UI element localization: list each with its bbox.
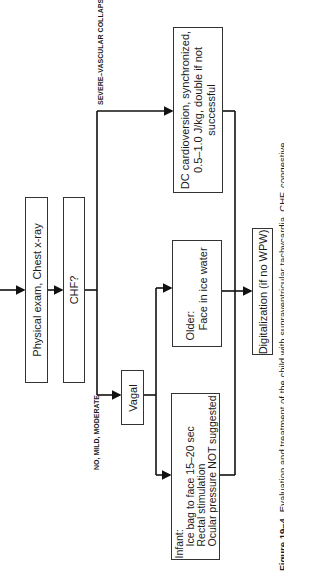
chf-label: CHF? — [68, 276, 81, 305]
figure-caption: Figure 19–4Evaluation and treatment of t… — [277, 143, 284, 571]
infant-node: Infant: Ice bag to face 15–20 sec Rectal… — [171, 393, 220, 560]
severe-branch-label: SEVERE–VASCULAR COLLAPSE — [97, 0, 104, 105]
mild-branch-label: NO, MILD, MODERATE — [93, 395, 100, 470]
vagal-label: Vagal — [126, 384, 139, 411]
figure-number: Figure 19–4 — [277, 518, 284, 571]
digitalization-node: Digitalization (if no WPW) — [252, 228, 273, 355]
vagal-node: Vagal — [121, 370, 144, 425]
digitalization-label: Digitalization (if no WPW) — [256, 229, 269, 354]
caption-text: Evaluation and treatment of the child wi… — [277, 143, 284, 513]
older-node: Older: Face in ice water — [172, 240, 222, 347]
dc-cardioversion-node: DC cardioversion, synchronized, 0.5–1.0 … — [173, 27, 223, 193]
exam-node: Physical exam, Chest x-ray — [25, 197, 48, 383]
older-text: Older: Face in ice water — [184, 247, 210, 340]
chf-node: CHF? — [63, 197, 85, 383]
exam-label: Physical exam, Chest x-ray — [30, 223, 43, 356]
dc-cardioversion-text: DC cardioversion, synchronized, 0.5–1.0 … — [179, 31, 218, 189]
infant-text: Infant: Ice bag to face 15–20 sec Rectal… — [174, 395, 218, 558]
